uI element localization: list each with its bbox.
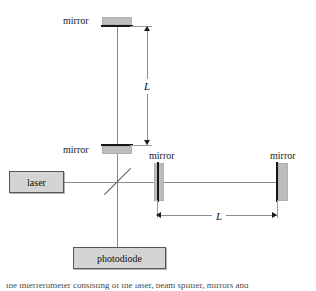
photodiode-box[interactable]: photodiode (73, 247, 166, 269)
dim-arrow-down (144, 140, 150, 145)
laser-label: laser (27, 177, 46, 188)
dim-arrow-right (272, 212, 277, 218)
photodiode-label: photodiode (97, 253, 142, 264)
dim-arrow-up (144, 26, 150, 31)
mirror-right-near-label: mirror (149, 151, 175, 161)
mirror-top-label: mirror (63, 16, 89, 26)
mirror-top-face (101, 25, 133, 27)
caption-partial: the interferometer consisting of the las… (0, 284, 316, 291)
mirror-mid-label: mirror (63, 145, 89, 155)
laser-box[interactable]: laser (9, 171, 64, 193)
interferometer-figure: mirror mirror L mirror mirror L laser ph… (0, 0, 316, 291)
mirror-right-near-body (154, 163, 164, 201)
length-vertical-label: L (141, 79, 153, 94)
mirror-mid-body (102, 146, 132, 154)
length-horizontal-label: L (212, 209, 226, 224)
dim-ext-mid (130, 145, 152, 146)
beam-horizontal (63, 182, 278, 183)
mirror-right-far-body (278, 163, 288, 201)
beam-vertical (117, 26, 118, 248)
mirror-right-far-label: mirror (270, 151, 296, 161)
dim-ext-far (277, 200, 278, 218)
mirror-right-near-face (157, 162, 159, 202)
dim-arrow-left (156, 212, 161, 218)
mirror-top-body (102, 17, 132, 25)
